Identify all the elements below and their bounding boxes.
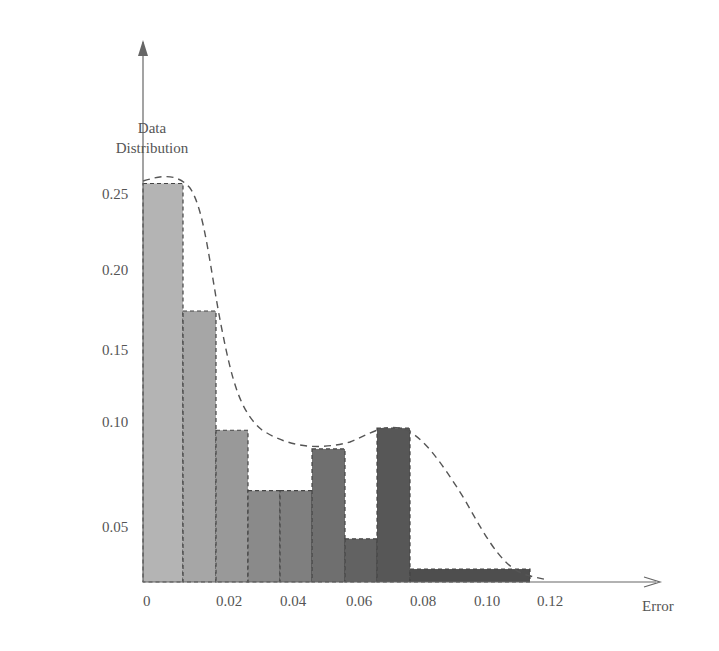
y-tick-0.10: 0.10 bbox=[102, 414, 128, 431]
y-axis-label: Data Distribution bbox=[92, 118, 212, 158]
x-tick-0.06: 0.06 bbox=[346, 593, 372, 610]
histogram-plot bbox=[0, 0, 719, 651]
histogram-bar bbox=[248, 491, 280, 582]
x-tick-0.10: 0.10 bbox=[474, 593, 500, 610]
histogram-bar bbox=[280, 491, 312, 582]
x-tick-0.08: 0.08 bbox=[410, 593, 436, 610]
x-axis-label: Error bbox=[642, 598, 674, 615]
x-tick-0.12: 0.12 bbox=[537, 593, 563, 610]
histogram-bar bbox=[216, 430, 248, 582]
y-tick-0.25: 0.25 bbox=[102, 186, 128, 203]
x-tick-0.04: 0.04 bbox=[280, 593, 306, 610]
histogram-bar bbox=[377, 428, 410, 582]
y-tick-0.15: 0.15 bbox=[102, 342, 128, 359]
histogram-bar bbox=[183, 311, 216, 582]
histogram-bar bbox=[312, 449, 345, 582]
y-axis-label-line1: Data bbox=[92, 118, 212, 138]
histogram-bar bbox=[410, 569, 530, 582]
y-tick-0.20: 0.20 bbox=[102, 262, 128, 279]
y-axis-arrow-icon bbox=[138, 40, 148, 56]
histogram-bar bbox=[345, 539, 377, 582]
y-tick-0.05: 0.05 bbox=[102, 519, 128, 536]
x-tick-0: 0 bbox=[143, 593, 151, 610]
x-tick-0.02: 0.02 bbox=[216, 593, 242, 610]
y-axis-label-line2: Distribution bbox=[92, 138, 212, 158]
histogram-bar bbox=[143, 184, 183, 583]
